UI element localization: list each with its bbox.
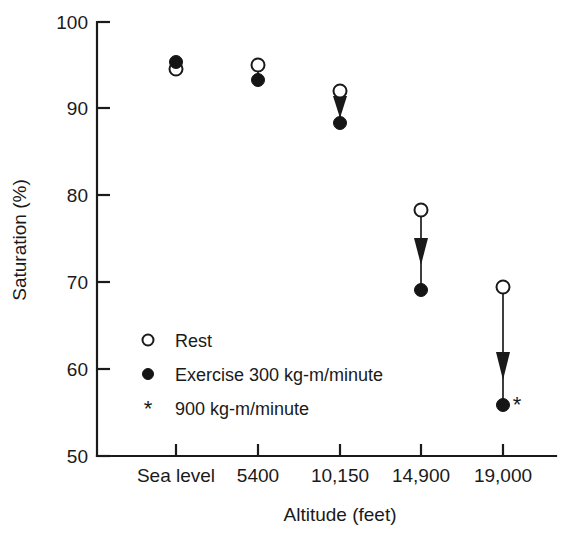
exercise-marker-14900 (415, 284, 428, 297)
x-tick-label-19000: 19,000 (474, 465, 532, 486)
y-tick-label-70: 70 (67, 272, 88, 293)
x-tick-label-10150: 10,150 (311, 465, 369, 486)
decline-arrow-10150 (333, 96, 347, 118)
x-tick-label-14900: 14,900 (392, 465, 450, 486)
exercise-marker-10150 (334, 117, 347, 130)
rest-marker-10150 (334, 85, 347, 98)
legend-label-exercise-300: Exercise 300 kg-m/minute (175, 365, 383, 385)
legend-label-rest: Rest (175, 331, 212, 351)
y-tick-label-60: 60 (67, 359, 88, 380)
chart-legend: Rest Exercise 300 kg-m/minute * 900 kg-m… (143, 331, 384, 421)
y-tick-label-90: 90 (67, 98, 88, 119)
y-tick-label-50: 50 (67, 446, 88, 467)
exercise-marker-19000 (497, 399, 510, 412)
y-tick-label-80: 80 (67, 185, 88, 206)
x-axis-ticks (176, 444, 503, 456)
legend-filled-circle-icon (143, 369, 154, 380)
data-group-sea-level (170, 56, 183, 76)
decline-arrow-14900 (414, 238, 428, 265)
data-group-14900 (414, 204, 428, 297)
x-axis-title: Altitude (feet) (284, 504, 397, 525)
rest-marker-14900 (415, 204, 428, 217)
asterisk-marker-19000: * (513, 392, 522, 417)
legend-open-circle-icon (143, 335, 154, 346)
y-axis-title: Saturation (%) (9, 179, 30, 300)
legend-label-900: 900 kg-m/minute (175, 399, 309, 419)
y-tick-label-100: 100 (56, 12, 88, 33)
data-group-5400 (252, 59, 265, 87)
rest-marker-19000 (497, 281, 510, 294)
data-group-10150 (333, 85, 347, 130)
y-axis-ticks (97, 22, 110, 456)
exercise-marker-5400 (252, 74, 265, 87)
x-tick-label-sea-level: Sea level (137, 465, 215, 486)
x-tick-label-5400: 5400 (237, 465, 279, 486)
exercise-marker-sea-level (170, 56, 183, 69)
chart-figure: 100 90 80 70 60 50 Sea level 5400 10,150… (0, 0, 566, 536)
decline-arrow-19000 (496, 352, 510, 380)
legend-asterisk-icon: * (144, 396, 153, 421)
rest-marker-5400 (252, 59, 265, 72)
saturation-altitude-scatter-chart: 100 90 80 70 60 50 Sea level 5400 10,150… (0, 0, 566, 536)
data-group-19000: * (496, 281, 522, 418)
